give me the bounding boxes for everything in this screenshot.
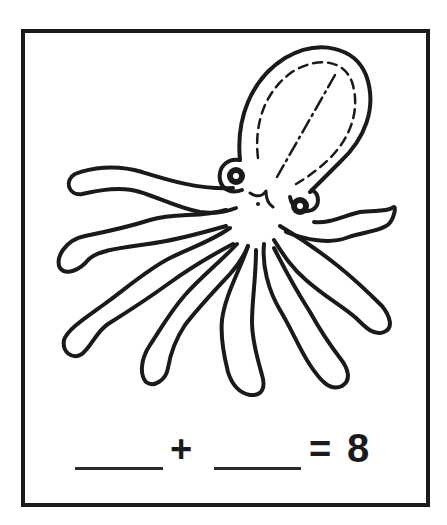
plus-sign: + [170,430,192,468]
addend-1-blank[interactable] [75,467,163,470]
equals-sign: = [309,430,331,468]
sum-value: 8 [347,429,369,467]
addend-2-blank[interactable] [214,467,301,470]
addition-equation: + = 8 [0,425,447,475]
